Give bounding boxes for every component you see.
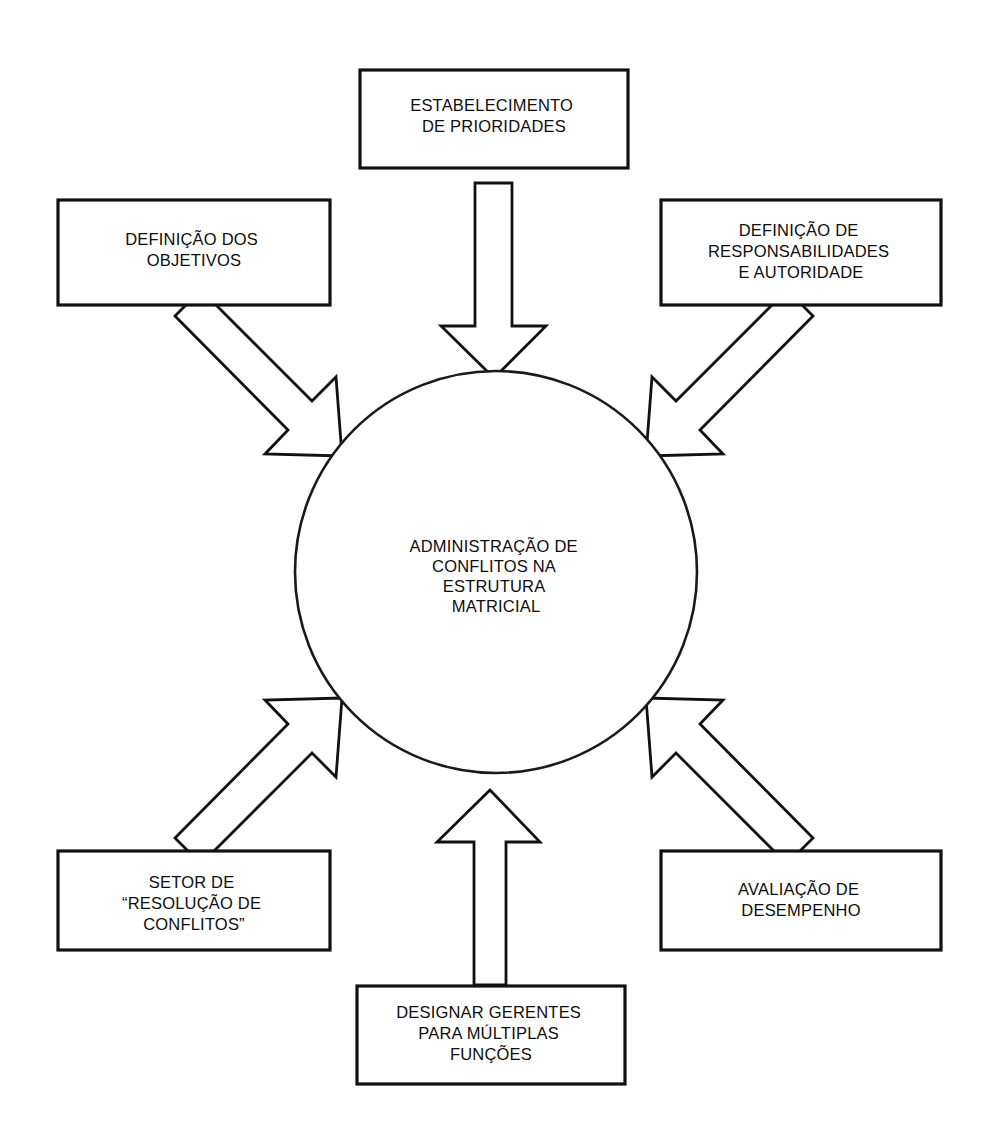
node-top-left-line-1: DEFINIÇÃO DOS [125, 229, 258, 248]
node-definicao-de-responsabilidades-e-autoridade[interactable]: DEFINIÇÃO DE RESPONSABILIDADES E AUTORID… [661, 200, 941, 305]
node-setor-de-resolucao-de-conflitos[interactable]: SETOR DE “RESOLUÇÃO DE CONFLITOS” [58, 851, 330, 950]
center-line-2: CONFLITOS NA [432, 557, 556, 575]
center-line-4: MATRICIAL [452, 597, 541, 615]
arrow-bottom-left-diagonal [175, 698, 342, 864]
node-avaliacao-de-desempenho[interactable]: AVALIAÇÃO DE DESEMPENHO [661, 851, 941, 950]
node-bottom-right-line-1: AVALIAÇÃO DE [738, 879, 859, 898]
node-top-left-line-2: OBJETIVOS [147, 251, 241, 269]
node-bottom-left-line-1: SETOR DE [149, 873, 235, 891]
node-top-line-2: DE PRIORIDADES [422, 117, 566, 135]
node-bottom-left-line-3: CONFLITOS” [143, 915, 245, 933]
node-designar-gerentes-para-multiplas-funcoes[interactable]: DESIGNAR GERENTES PARA MÚLTIPLAS FUNÇÕES [357, 986, 625, 1084]
node-bottom-line-2: PARA MÚLTIPLAS [418, 1024, 559, 1042]
arrow-bottom-up [437, 790, 540, 985]
node-top-right-line-2: RESPONSABILIDADES [708, 242, 889, 260]
center-line-1: ADMINISTRAÇÃO DE [409, 536, 577, 555]
node-definicao-dos-objetivos[interactable]: DEFINIÇÃO DOS OBJETIVOS [58, 200, 330, 305]
center-line-3: ESTRUTURA [443, 577, 545, 595]
diagram-root: ADMINISTRAÇÃO DE CONFLITOS NA ESTRUTURA … [0, 0, 990, 1147]
arrow-top-left-diagonal [175, 290, 342, 456]
node-bottom-right-line-2: DESEMPENHO [741, 901, 860, 919]
node-top-right-line-3: E AUTORIDADE [739, 263, 864, 281]
node-bottom-line-1: DESIGNAR GERENTES [396, 1003, 581, 1021]
arrow-bottom-right-diagonal [646, 698, 813, 864]
node-top-right-line-1: DEFINIÇÃO DE [739, 220, 859, 239]
node-estabelecimento-de-prioridades[interactable]: ESTABELECIMENTO DE PRIORIDADES [360, 70, 628, 168]
node-bottom-line-3: FUNÇÕES [450, 1044, 532, 1063]
arrow-top-down [441, 183, 546, 378]
conflict-management-diagram: ADMINISTRAÇÃO DE CONFLITOS NA ESTRUTURA … [0, 0, 990, 1147]
node-top-line-1: ESTABELECIMENTO [410, 96, 573, 114]
arrow-top-right-diagonal [646, 290, 813, 456]
node-bottom-left-line-2: “RESOLUÇÃO DE [122, 893, 261, 912]
